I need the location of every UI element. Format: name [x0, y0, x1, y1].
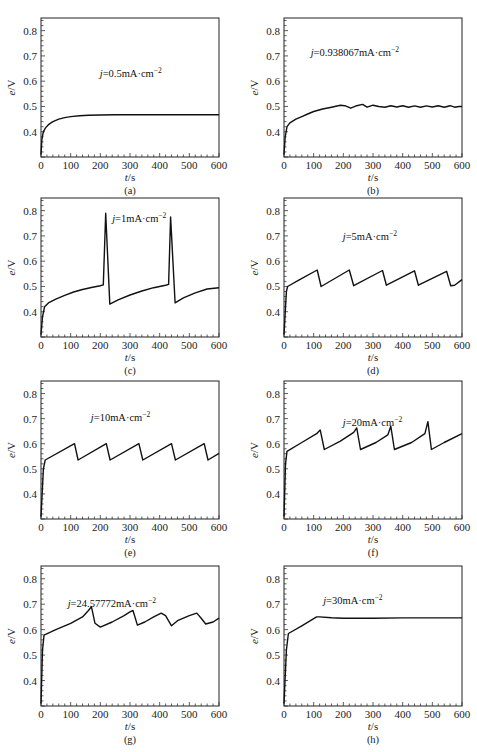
current-density-annotation: j=30mA·cm−2: [321, 593, 383, 606]
panel-caption: (b): [367, 185, 380, 197]
panel-caption: (d): [367, 365, 380, 377]
x-tick-label: 100: [62, 708, 79, 720]
plot-frame: [41, 566, 219, 706]
x-tick-label: 600: [211, 159, 228, 171]
chart-panel-d: 01002003004005006000.40.50.60.70.8e/Vt/s…: [248, 198, 471, 377]
y-tick-label: 0.4: [266, 488, 280, 500]
plot-frame: [284, 18, 462, 157]
potential-curve: [284, 104, 462, 154]
x-tick-label: 100: [305, 159, 322, 171]
plot-frame: [284, 566, 462, 706]
figure-canvas: 01002003004005006000.40.50.60.70.8e/Vt/s…: [0, 0, 477, 752]
chart-panel-h: 01002003004005006000.40.50.60.70.8e/Vt/s…: [248, 566, 471, 746]
x-tick-label: 500: [424, 339, 441, 351]
x-axis-label: t/s: [125, 351, 135, 363]
x-tick-label: 400: [394, 521, 411, 533]
y-tick-label: 0.8: [23, 205, 37, 217]
y-tick-label: 0.5: [23, 463, 37, 475]
y-tick-label: 0.4: [23, 306, 37, 318]
x-tick-label: 300: [365, 159, 382, 171]
y-axis-label: e/V: [248, 79, 260, 95]
chart-panel-g: 01002003004005006000.40.50.60.70.8e/Vt/s…: [5, 566, 228, 746]
x-tick-label: 300: [122, 708, 139, 720]
y-tick-label: 0.8: [23, 573, 37, 585]
y-tick-label: 0.5: [23, 280, 37, 292]
plot-frame: [284, 381, 462, 519]
panel-caption: (c): [124, 365, 136, 377]
x-tick-label: 500: [424, 159, 441, 171]
current-density-annotation: j=24.57772mA·cm−2: [66, 596, 157, 609]
panel-caption: (e): [124, 547, 136, 559]
y-tick-label: 0.6: [266, 255, 280, 267]
x-tick-label: 300: [122, 339, 139, 351]
x-tick-label: 100: [62, 159, 79, 171]
x-tick-label: 100: [305, 708, 322, 720]
y-axis-label: e/V: [5, 442, 17, 458]
y-tick-label: 0.4: [266, 306, 280, 318]
panel-caption: (a): [124, 185, 136, 197]
x-tick-label: 300: [365, 708, 382, 720]
x-tick-label: 0: [281, 521, 287, 533]
panel-caption: (f): [368, 547, 379, 559]
y-tick-label: 0.5: [266, 649, 280, 661]
x-axis-label: t/s: [368, 171, 378, 183]
plot-frame: [284, 198, 462, 337]
x-tick-label: 400: [394, 159, 411, 171]
y-tick-label: 0.6: [266, 75, 280, 87]
x-tick-label: 500: [424, 521, 441, 533]
x-tick-label: 400: [394, 708, 411, 720]
x-tick-label: 600: [211, 339, 228, 351]
y-tick-label: 0.8: [23, 388, 37, 400]
x-tick-label: 200: [335, 339, 352, 351]
current-density-annotation: j=0.938067mA·cm−2: [309, 45, 400, 58]
x-tick-label: 400: [151, 339, 168, 351]
x-axis-label: t/s: [125, 533, 135, 545]
y-tick-label: 0.6: [23, 75, 37, 87]
x-tick-label: 300: [122, 159, 139, 171]
current-density-annotation: j=5mA·cm−2: [341, 229, 397, 242]
x-tick-label: 100: [62, 339, 79, 351]
y-tick-label: 0.5: [23, 100, 37, 112]
y-tick-label: 0.8: [266, 25, 280, 37]
current-density-annotation: j=1mA·cm−2: [110, 211, 166, 224]
y-axis-label: e/V: [5, 628, 17, 644]
chart-panel-b: 01002003004005006000.40.50.60.70.8e/Vt/s…: [248, 18, 471, 197]
x-tick-label: 200: [92, 521, 109, 533]
x-tick-label: 600: [211, 521, 228, 533]
y-tick-label: 0.7: [23, 50, 37, 62]
y-axis-label: e/V: [248, 259, 260, 275]
y-axis-label: e/V: [5, 79, 17, 95]
x-tick-label: 500: [181, 159, 198, 171]
y-tick-label: 0.4: [23, 488, 37, 500]
y-tick-label: 0.7: [23, 230, 37, 242]
x-tick-label: 600: [454, 159, 471, 171]
panel-caption: (h): [367, 734, 380, 746]
x-tick-label: 200: [335, 521, 352, 533]
y-tick-label: 0.7: [266, 50, 280, 62]
y-tick-label: 0.5: [23, 649, 37, 661]
y-tick-label: 0.8: [266, 573, 280, 585]
x-tick-label: 100: [305, 339, 322, 351]
x-tick-label: 500: [424, 708, 441, 720]
chart-panel-c: 01002003004005006000.40.50.60.70.8e/Vt/s…: [5, 198, 228, 377]
x-tick-label: 0: [281, 159, 287, 171]
x-tick-label: 600: [454, 521, 471, 533]
y-tick-label: 0.8: [266, 388, 280, 400]
x-tick-label: 400: [151, 159, 168, 171]
current-density-annotation: j=20mA·cm−2: [341, 415, 403, 428]
x-tick-label: 500: [181, 521, 198, 533]
x-tick-label: 500: [181, 708, 198, 720]
y-tick-label: 0.8: [266, 205, 280, 217]
x-axis-label: t/s: [368, 720, 378, 732]
x-tick-label: 200: [335, 159, 352, 171]
chart-panel-a: 01002003004005006000.40.50.60.70.8e/Vt/s…: [5, 18, 228, 197]
x-tick-label: 100: [305, 521, 322, 533]
x-axis-label: t/s: [368, 351, 378, 363]
y-tick-label: 0.5: [266, 463, 280, 475]
y-tick-label: 0.4: [266, 126, 280, 138]
y-tick-label: 0.6: [23, 438, 37, 450]
x-tick-label: 0: [281, 708, 287, 720]
y-axis-label: e/V: [5, 259, 17, 275]
x-axis-label: t/s: [125, 171, 135, 183]
x-tick-label: 200: [335, 708, 352, 720]
